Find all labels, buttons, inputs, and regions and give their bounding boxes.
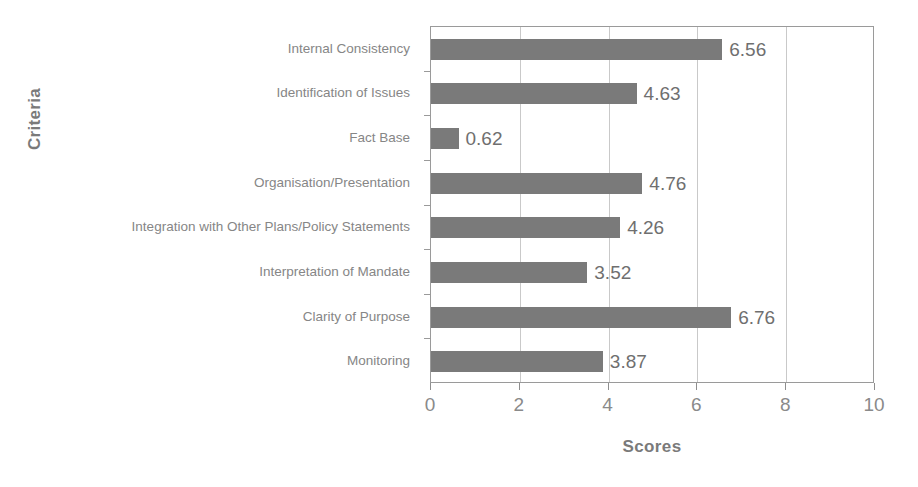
x-axis-tick-label: 0 <box>410 394 450 416</box>
bar-row: 6.56 <box>431 27 873 72</box>
bar <box>431 39 722 60</box>
bar <box>431 83 637 104</box>
category-label: Fact Base <box>349 115 410 160</box>
category-label: Monitoring <box>347 338 410 383</box>
bar-row: 4.63 <box>431 72 873 117</box>
bar-value-label: 4.63 <box>644 84 681 103</box>
x-axis-tick <box>696 383 697 390</box>
bar-value-label: 6.76 <box>738 308 775 327</box>
bar-value-label: 4.76 <box>649 174 686 193</box>
x-axis-title: Scores <box>430 437 874 457</box>
category-label: Interpretation of Mandate <box>259 249 410 294</box>
bar-value-label: 6.56 <box>729 40 766 59</box>
x-axis-tick-label: 4 <box>588 394 628 416</box>
x-axis-tick-label: 8 <box>765 394 805 416</box>
x-axis-tick-label: 6 <box>676 394 716 416</box>
x-axis-tick <box>430 383 431 390</box>
bar-value-label: 0.62 <box>466 129 503 148</box>
bar-row: 0.62 <box>431 116 873 161</box>
bar-row: 3.52 <box>431 250 873 295</box>
bar <box>431 307 731 328</box>
bar-row: 4.76 <box>431 161 873 206</box>
bar-value-label: 3.52 <box>594 263 631 282</box>
bar <box>431 128 459 149</box>
bar-row: 4.26 <box>431 206 873 251</box>
bar <box>431 262 587 283</box>
category-label: Integration with Other Plans/Policy Stat… <box>132 205 410 250</box>
x-axis-tick <box>874 383 875 390</box>
bar <box>431 173 642 194</box>
bar-row: 3.87 <box>431 339 873 384</box>
category-label: Clarity of Purpose <box>303 294 410 339</box>
category-label: Organisation/Presentation <box>254 160 410 205</box>
x-axis-tick <box>785 383 786 390</box>
x-axis-tick <box>519 383 520 390</box>
bar <box>431 217 620 238</box>
bar-value-label: 3.87 <box>610 352 647 371</box>
x-axis-tick <box>608 383 609 390</box>
x-axis-tick-label: 2 <box>499 394 539 416</box>
bar-row: 6.76 <box>431 295 873 340</box>
bar-value-label: 4.26 <box>627 218 664 237</box>
category-label: Internal Consistency <box>288 26 410 71</box>
bar <box>431 351 603 372</box>
category-label: Identification of Issues <box>276 71 410 116</box>
x-axis-tick-label: 10 <box>854 394 894 416</box>
y-axis-tick-labels: Internal ConsistencyIdentification of Is… <box>40 26 420 383</box>
plot-area: 6.564.630.624.764.263.526.763.87 <box>430 26 874 383</box>
